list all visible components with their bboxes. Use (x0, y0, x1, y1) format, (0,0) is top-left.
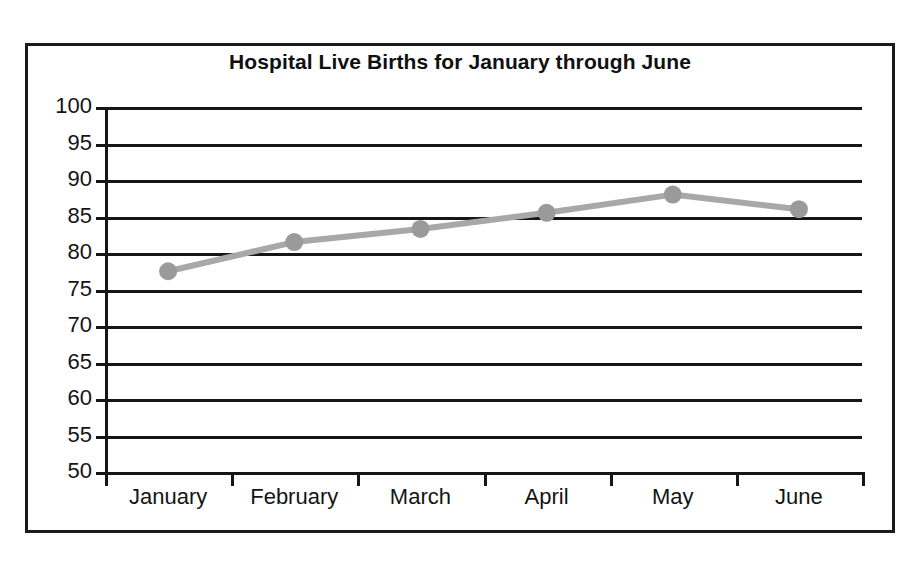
gridline (105, 144, 862, 147)
y-axis-label: 85 (36, 203, 92, 229)
gridline (105, 363, 862, 366)
y-axis-label: 55 (36, 422, 92, 448)
gridline (105, 107, 862, 110)
chart-figure: Hospital Live Births for January through… (0, 0, 918, 569)
y-axis-tick (96, 107, 114, 110)
y-axis-label: 90 (36, 166, 92, 192)
plot-area (105, 107, 862, 472)
x-axis-label: April (484, 484, 610, 510)
gridline (105, 399, 862, 402)
x-axis-tick (862, 472, 865, 486)
y-axis-tick (96, 436, 114, 439)
x-axis-line (105, 472, 862, 475)
x-axis-label: June (736, 484, 862, 510)
y-axis-tick (96, 326, 114, 329)
gridline (105, 436, 862, 439)
y-axis-label: 60 (36, 385, 92, 411)
y-axis-label: 50 (36, 458, 92, 484)
y-axis-tick (96, 253, 114, 256)
y-axis-label: 100 (36, 93, 92, 119)
x-axis-label: January (105, 484, 231, 510)
y-axis-label: 65 (36, 349, 92, 375)
chart-title: Hospital Live Births for January through… (25, 50, 895, 74)
gridline (105, 326, 862, 329)
gridline (105, 217, 862, 220)
gridline (105, 180, 862, 183)
gridline (105, 290, 862, 293)
gridline (105, 253, 862, 256)
y-axis-label: 70 (36, 312, 92, 338)
y-axis-tick (96, 180, 114, 183)
x-axis-label: March (357, 484, 483, 510)
y-axis-tick (96, 363, 114, 366)
y-axis-tick (96, 399, 114, 402)
y-axis-label: 80 (36, 239, 92, 265)
y-axis-label: 75 (36, 276, 92, 302)
x-axis-label: February (231, 484, 357, 510)
y-axis-tick (96, 217, 114, 220)
y-axis-tick (96, 290, 114, 293)
y-axis-label: 95 (36, 130, 92, 156)
y-axis-tick (96, 144, 114, 147)
x-axis-label: May (610, 484, 736, 510)
